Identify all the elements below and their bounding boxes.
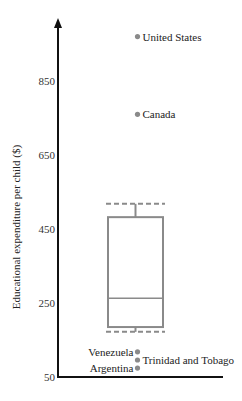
outlier-point <box>135 34 140 39</box>
y-tick-label: 650 <box>39 149 56 161</box>
outlier-label: United States <box>143 31 202 43</box>
y-axis-arrow-icon <box>54 18 62 28</box>
y-axis-title: Educational expenditure per child ($) <box>10 145 23 310</box>
outlier-label: Venezuela <box>88 346 133 358</box>
axes <box>54 18 223 377</box>
y-axis-label: Educational expenditure per child ($) <box>10 145 23 310</box>
outlier-label: Canada <box>143 108 176 120</box>
y-tick-label: 50 <box>44 371 56 383</box>
box-plot-chart: Educational expenditure per child ($) 50… <box>0 0 242 401</box>
y-tick-label: 450 <box>39 223 56 235</box>
y-tick-label: 250 <box>39 297 56 309</box>
box <box>106 204 165 332</box>
outlier-point <box>135 366 140 371</box>
outlier-point <box>135 357 140 362</box>
outlier-points: United StatesCanadaVenezuelaTrinidad and… <box>88 31 234 375</box>
outlier-label: Trinidad and Tobago <box>143 354 235 366</box>
outlier-point <box>135 112 140 117</box>
y-axis-ticks: 50250450650850 <box>39 75 56 383</box>
y-tick-label: 850 <box>39 75 56 87</box>
iqr-box <box>108 217 163 327</box>
outlier-label: Argentina <box>90 362 134 374</box>
outlier-point <box>135 349 140 354</box>
